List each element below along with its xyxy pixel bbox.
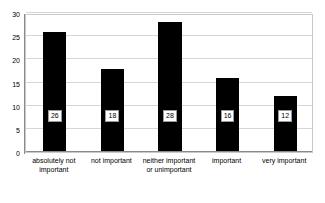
- bar-value-label: 28: [163, 110, 177, 122]
- plot-area: 2618281612: [25, 14, 313, 153]
- bar-chart: 051015202530 2618281612 absolutely notim…: [0, 0, 325, 203]
- bar-slot: 26: [26, 13, 84, 152]
- x-axis-category-label-line: important: [198, 156, 256, 165]
- bar-value-label: 12: [278, 110, 292, 122]
- y-axis-labels: 051015202530: [2, 0, 20, 203]
- bar-slot: 18: [84, 13, 142, 152]
- y-axis-tick-label: 30: [2, 11, 20, 18]
- x-axis-category-label-line: very important: [255, 156, 313, 165]
- x-axis-baseline: [26, 151, 312, 152]
- bar[interactable]: 12: [274, 96, 297, 152]
- bar[interactable]: 16: [216, 78, 239, 152]
- bar[interactable]: 18: [101, 69, 124, 152]
- y-axis-tick-label: 15: [2, 80, 20, 87]
- bar-slot: 16: [199, 13, 257, 152]
- y-axis-tick-label: 25: [2, 34, 20, 41]
- x-axis-category-label: not important: [83, 156, 141, 165]
- x-axis-category-label: absolutely notimportant: [25, 156, 83, 174]
- y-axis-tick-label: 10: [2, 103, 20, 110]
- x-axis-category-label: important: [198, 156, 256, 165]
- x-axis-category-label-line: or unimportant: [140, 165, 198, 174]
- x-axis-category-label-line: important: [25, 165, 83, 174]
- y-axis-tick-label: 0: [2, 150, 20, 157]
- x-axis-labels: absolutely notimportantnot importantneit…: [25, 156, 313, 200]
- bar[interactable]: 26: [43, 32, 66, 152]
- bar-value-label: 26: [48, 110, 62, 122]
- x-axis-category-label-line: absolutely not: [25, 156, 83, 165]
- bar[interactable]: 28: [158, 22, 181, 152]
- x-axis-category-label-line: not important: [83, 156, 141, 165]
- x-axis-category-label: neither importantor unimportant: [140, 156, 198, 174]
- bar-slot: 12: [256, 13, 314, 152]
- bar-value-label: 18: [105, 110, 119, 122]
- x-axis-category-label-line: neither important: [140, 156, 198, 165]
- y-axis-tick-label: 20: [2, 57, 20, 64]
- bar-value-label: 16: [221, 110, 235, 122]
- bar-slot: 28: [141, 13, 199, 152]
- y-axis-tick-label: 5: [2, 126, 20, 133]
- bars-layer: 2618281612: [26, 15, 312, 152]
- x-axis-category-label: very important: [255, 156, 313, 165]
